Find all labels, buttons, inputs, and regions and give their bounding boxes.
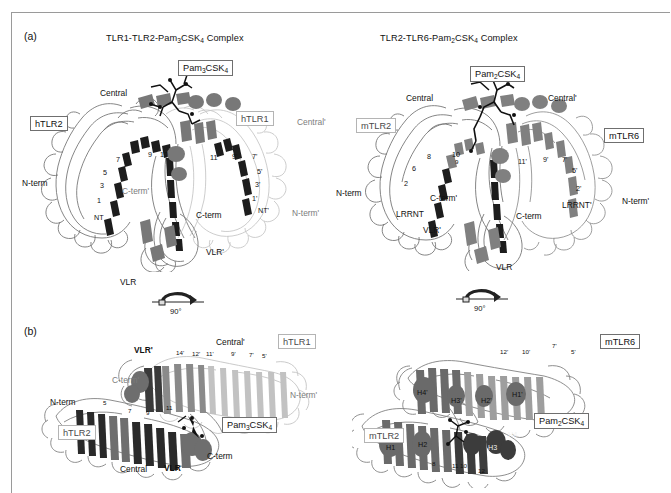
- number-6-panel-a-right: 6: [412, 164, 416, 173]
- label-central-panel-a-right: Central: [406, 93, 433, 103]
- label-htlr2-panel-a: hTLR2: [30, 116, 68, 131]
- label-n-term-panel-a-right: N-term: [336, 188, 362, 198]
- number-9-panel-a-left: 9: [148, 150, 152, 159]
- rotation-indicator-left: 90°: [150, 290, 206, 312]
- number-3-prime-panel-a-left: 3': [255, 180, 260, 189]
- label-n-term-prime-panel-a-left: N-term': [292, 208, 319, 218]
- rotation-angle-right: 90°: [474, 304, 485, 313]
- label-htlr1-panel-a: hTLR1: [236, 111, 274, 126]
- label-n-term-prime-panel-b-left: N-term': [290, 390, 317, 400]
- label-vlr-panel-a-right: VLR: [496, 262, 512, 272]
- panel-letter-b: (b): [24, 325, 37, 337]
- label-c-term-prime-panel-a-left: C-term': [122, 186, 149, 196]
- label-h4-prime-panel-b-right: H4': [417, 388, 428, 397]
- number-3-panel-a-left: 3: [100, 181, 104, 190]
- label-htlr2-panel-b: hTLR2: [58, 425, 96, 440]
- number-10-panel-a-left: 10: [160, 150, 168, 159]
- number-7-prime-panel-b-right: 7': [552, 342, 557, 349]
- number-5-prime-panel-b-left: 5': [262, 352, 267, 359]
- number-11-prime-panel-a-right: 11': [518, 157, 527, 166]
- label-c-term-panel-b-left: C-term: [207, 451, 233, 461]
- panel-b-left-structure: [40, 338, 340, 488]
- label-pam3csk4-panel-b: Pam3CSK4: [222, 417, 277, 433]
- number-5-prime-panel-a-right: 5': [572, 166, 577, 175]
- label-c-term-prime-panel-a-right: C-term': [430, 193, 457, 203]
- figure-canvas: (a) TLR1-TLR2-Pam3CSK4 Complex TLR2-TLR6…: [0, 0, 671, 493]
- panel-a-left-structure: [18, 62, 338, 272]
- number-9-panel-b-left: 9: [146, 409, 149, 416]
- label-c-term-prime-panel-b-left: C-term': [112, 375, 139, 385]
- label-vlr-prime-panel-a-right: VLR': [423, 225, 441, 235]
- number-8-panel-a-right: 8: [427, 152, 431, 161]
- label-h1-prime-panel-b-right: H1': [512, 390, 523, 399]
- rotation-90-icon: [150, 290, 206, 308]
- number-9-prime-panel-a-right: 9': [543, 155, 548, 164]
- label-pam2csk4-panel-a: Pam2CSK4: [470, 66, 525, 82]
- number-7-prime-panel-a-left: 7': [252, 152, 257, 161]
- number-7-prime-panel-b-left: 7': [249, 351, 254, 358]
- number-11-prime-panel-b-left: 11': [206, 350, 214, 357]
- label-n-term-panel-b-left: N-term: [50, 397, 76, 407]
- label-mtlr2-panel-b: mTLR2: [364, 428, 404, 443]
- label-lrrnt-prime-panel-a-right: LRRNT': [562, 200, 592, 210]
- label-central-panel-b-left: Central: [120, 464, 147, 474]
- label-mtlr6-panel-a: mTLR6: [604, 128, 644, 143]
- label-mtlr6-panel-b: mTLR6: [600, 334, 640, 349]
- label-h1-panel-b-right: H1: [386, 443, 395, 452]
- panel-letter-a: (a): [24, 30, 37, 42]
- panel-b-right-structure: [352, 338, 652, 488]
- label-h4-panel-b-right: H4: [508, 430, 517, 439]
- label-nt-panel-a-left: NT: [94, 213, 104, 222]
- label-h3-prime-panel-b-right: H3': [451, 396, 462, 405]
- number-8-panel-b-right: 8: [432, 460, 435, 467]
- label-n-term-panel-a-left: N-term: [22, 178, 48, 188]
- rotation-angle-left: 90°: [170, 307, 181, 316]
- number-1-panel-a-left: 1: [97, 196, 101, 205]
- number-10-prime-panel-b-right: 10': [522, 348, 530, 355]
- label-h2-prime-panel-b-right: H2': [481, 396, 492, 405]
- number-5-panel-b-left: 5: [103, 399, 106, 406]
- label-n-term-prime-panel-a-right: N-term': [622, 196, 649, 206]
- label-central-prime-panel-a-right: Central': [548, 93, 577, 103]
- number-7-prime-panel-a-right: 7': [562, 155, 567, 164]
- label-central-prime-panel-b-left: Central': [216, 337, 245, 347]
- label-central-prime-panel-a-left: Central': [297, 117, 326, 127]
- label-pam3csk4-panel-a: Pam3CSK4: [178, 60, 233, 76]
- number-12-panel-b-right: 12: [478, 467, 485, 474]
- number-5-prime-panel-a-left: 5': [257, 167, 262, 176]
- rotation-indicator-right: 90°: [454, 287, 510, 309]
- label-vlr-prime-panel-b-left: VLR': [134, 345, 153, 355]
- number-2-panel-a-right: 2: [404, 179, 408, 188]
- number-10-panel-b-right: 10: [460, 462, 467, 469]
- number-12-prime-panel-b-left: 12': [192, 350, 200, 357]
- label-vlr-prime-panel-a-left: VLR': [206, 247, 224, 257]
- number-9-prime-panel-b-left: 9': [231, 350, 236, 357]
- number-7-panel-b-left: 7: [128, 407, 131, 414]
- number-11-prime-panel-a-left: 11': [210, 153, 219, 162]
- label-vlr-panel-a-left: VLR: [120, 277, 136, 287]
- label-pam2csk4-panel-b: Pam2CSK4: [534, 413, 589, 429]
- number-9-prime-panel-a-left: 9': [232, 152, 237, 161]
- label-h2-panel-b-right: H2: [418, 440, 427, 449]
- label-c-term-panel-a-right: C-term: [516, 211, 542, 221]
- number-5-panel-a-left: 5: [103, 168, 107, 177]
- number-7-panel-a-left: 7: [116, 155, 120, 164]
- label-lrrnt-panel-a-right: LRRNT: [396, 209, 424, 219]
- label-h3-panel-b-right: H3: [488, 443, 497, 452]
- panel-a-right-structure: [340, 62, 665, 272]
- label-central-panel-a-left: Central: [100, 88, 127, 98]
- rotation-90-icon-right: [454, 287, 510, 305]
- label-c-term-panel-a-left: C-term: [196, 210, 222, 220]
- number-10-panel-a-right: 10: [452, 150, 460, 159]
- panel-a-right-title: TLR2-TLR6-Pam2CSK4 Complex: [380, 33, 518, 44]
- label-vlr-panel-b-left: VLR: [164, 463, 181, 473]
- number-11-panel-b-right: 11: [452, 462, 458, 469]
- label-mtlr2-panel-a: mTLR2: [356, 118, 396, 133]
- number-12-prime-panel-b-right: 12': [500, 348, 508, 355]
- label-htlr1-panel-b: hTLR1: [278, 334, 316, 349]
- number-9-panel-a-right: 9: [455, 158, 458, 165]
- number-2-prime-panel-a-right: 2': [576, 184, 581, 193]
- number-14-prime-panel-b-left: 14': [176, 349, 184, 356]
- panel-a-left-title: TLR1-TLR2-Pam3CSK4 Complex: [106, 33, 244, 44]
- number-1-prime-panel-a-left: 1': [252, 194, 257, 203]
